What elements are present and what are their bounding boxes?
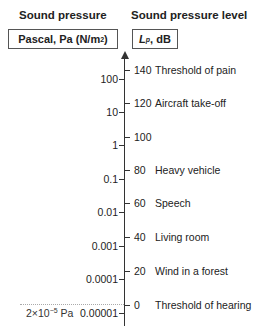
lp-symbol: L — [139, 33, 146, 45]
pa-tick-label: 1 — [112, 139, 118, 151]
db-tick-value: 140 — [134, 64, 152, 76]
pa-tick — [119, 145, 124, 146]
scale-axis — [124, 56, 125, 326]
pa-tick — [119, 79, 124, 80]
db-example-label: Threshold of pain — [155, 64, 236, 76]
pa-tick-label: 0.0001 — [86, 273, 118, 285]
db-tick-value: 40 — [134, 231, 146, 243]
db-example-label: Speech — [155, 197, 191, 209]
db-example-label: Aircraft take-off — [155, 97, 226, 109]
db-unit-box: Lp, dB — [132, 29, 178, 49]
db-tick-value: 120 — [134, 97, 152, 109]
db-tick — [125, 271, 130, 272]
db-tick — [125, 70, 130, 71]
db-tick — [125, 237, 130, 238]
sound-pressure-header: Sound pressure — [19, 9, 107, 21]
db-tick — [125, 137, 130, 138]
pascal-unit-text: Pascal, Pa (N/m — [18, 33, 100, 45]
pa-tick-label: 0.01 — [98, 206, 118, 218]
db-tick-value: 100 — [134, 131, 152, 143]
db-tick — [125, 203, 130, 204]
db-example-label: Threshold of hearing — [155, 299, 251, 311]
db-tick — [125, 170, 130, 171]
db-example-label: Living room — [155, 231, 209, 243]
db-unit-text: , dB — [150, 33, 171, 45]
pa-tick — [119, 179, 124, 180]
sound-pressure-level-header: Sound pressure level — [131, 9, 247, 21]
db-example-label: Wind in a forest — [155, 265, 228, 277]
pascal-unit-box: Pascal, Pa (N/m2) — [8, 29, 118, 49]
db-tick-value: 0 — [134, 299, 140, 311]
db-tick — [125, 305, 130, 306]
pa-tick — [119, 279, 124, 280]
db-tick-value: 80 — [134, 164, 146, 176]
reference-dotted-line — [20, 304, 124, 305]
pa-tick — [119, 212, 124, 213]
pa-tick-label: 100 — [100, 73, 118, 85]
reference-pressure-label: 2×10−5 Pa — [26, 307, 73, 320]
pa-tick-label: 0.001 — [92, 240, 118, 252]
pa-tick-label: 0.1 — [103, 173, 118, 185]
db-tick — [125, 103, 130, 104]
db-tick-value: 20 — [134, 265, 146, 277]
pa-tick-label: 10 — [106, 106, 118, 118]
pa-tick — [119, 112, 124, 113]
pa-tick — [119, 246, 124, 247]
db-example-label: Heavy vehicle — [155, 164, 220, 176]
pa-tick-label: 0.00001 — [80, 307, 118, 319]
db-tick-value: 60 — [134, 197, 146, 209]
pa-tick — [119, 313, 124, 314]
unit-close: ) — [104, 33, 108, 45]
